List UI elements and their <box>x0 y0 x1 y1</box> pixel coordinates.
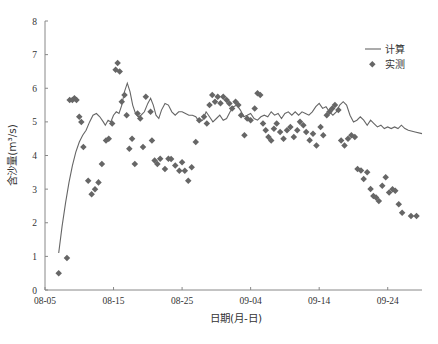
data-point-diamond <box>273 120 280 127</box>
data-point-diamond <box>157 156 164 163</box>
data-point-diamond <box>379 183 386 190</box>
data-point-diamond <box>260 120 267 127</box>
data-point-diamond <box>114 60 121 67</box>
data-point-diamond <box>188 164 195 171</box>
data-point-diamond <box>85 177 92 184</box>
data-point-diamond <box>209 92 216 99</box>
data-point-diamond <box>182 167 189 174</box>
series-line-calc <box>59 83 422 253</box>
x-tick-label: 09-04 <box>240 296 262 306</box>
y-tick-label: 0 <box>32 286 37 296</box>
y-tick-label: 1 <box>32 252 37 262</box>
data-point-diamond <box>121 92 128 99</box>
y-tick-label: 6 <box>32 84 37 94</box>
data-point-diamond <box>64 255 71 262</box>
y-tick-label: 4 <box>32 151 37 161</box>
x-tick-label: 08-15 <box>102 296 124 306</box>
data-point-diamond <box>313 142 320 149</box>
data-point-diamond <box>291 134 298 141</box>
data-point-diamond <box>140 144 147 151</box>
data-point-diamond <box>147 109 154 116</box>
data-point-diamond <box>129 135 136 142</box>
data-point-diamond <box>341 142 348 149</box>
y-tick-label: 3 <box>32 185 37 195</box>
chart: 012345678 08-0508-1508-2509-0409-1409-24… <box>0 0 438 344</box>
x-axis-title: 日期(月-日) <box>210 312 262 324</box>
data-point-diamond <box>306 137 313 144</box>
legend-item-calc: 计算 <box>365 43 405 55</box>
data-point-diamond <box>277 129 284 136</box>
data-point-diamond <box>126 146 133 153</box>
data-point-diamond <box>310 130 317 137</box>
y-tick-label: 2 <box>32 218 37 228</box>
x-tick-label: 09-14 <box>308 296 330 306</box>
plot-area <box>55 60 422 277</box>
legend-label-calc: 计算 <box>385 43 405 55</box>
y-tick-label: 5 <box>32 117 37 127</box>
data-point-diamond <box>123 112 130 119</box>
data-point-diamond <box>162 166 169 173</box>
data-point-diamond <box>367 186 374 193</box>
data-point-diamond <box>238 112 245 119</box>
data-point-diamond <box>201 114 208 121</box>
data-point-diamond <box>132 161 139 168</box>
data-point-diamond <box>92 186 99 193</box>
data-point-diamond <box>399 209 406 216</box>
data-point-diamond <box>294 127 301 134</box>
data-point-diamond <box>88 191 95 198</box>
data-point-diamond <box>172 162 179 169</box>
data-point-diamond <box>280 135 287 142</box>
data-point-diamond <box>95 179 102 186</box>
data-point-diamond <box>204 120 211 127</box>
data-point-diamond <box>364 169 371 176</box>
data-point-diamond <box>206 102 213 109</box>
data-point-diamond <box>217 100 224 107</box>
legend-item-observed: 实测 <box>369 58 405 70</box>
diamond-marker-icon <box>369 61 376 68</box>
x-tick-label: 08-05 <box>34 296 56 306</box>
data-point-diamond <box>382 174 389 181</box>
data-point-diamond <box>55 270 62 277</box>
y-tick-label: 8 <box>32 17 37 27</box>
data-point-diamond <box>320 132 327 139</box>
data-point-diamond <box>338 137 345 144</box>
data-point-diamond <box>413 213 420 220</box>
data-point-diamond <box>271 125 278 132</box>
y-axis: 012345678 <box>32 17 48 296</box>
legend: 计算 实测 <box>365 43 405 70</box>
x-axis: 08-0508-1508-2509-0409-1409-24 <box>34 287 422 306</box>
data-point-diamond <box>119 98 126 105</box>
x-tick-label: 09-24 <box>377 296 399 306</box>
data-point-diamond <box>262 127 269 134</box>
data-point-diamond <box>395 201 402 208</box>
data-point-diamond <box>80 144 87 151</box>
data-point-diamond <box>360 176 367 183</box>
data-point-diamond <box>241 132 248 139</box>
series-scatter-observed <box>55 60 419 277</box>
x-tick-label: 08-25 <box>171 296 193 306</box>
data-point-diamond <box>149 137 156 144</box>
y-axis-title: 含沙量(m³/s) <box>6 124 18 186</box>
data-point-diamond <box>179 159 186 166</box>
data-point-diamond <box>185 177 192 184</box>
y-tick-label: 7 <box>32 50 37 60</box>
data-point-diamond <box>251 105 258 112</box>
data-point-diamond <box>143 93 150 100</box>
data-point-diamond <box>193 139 200 146</box>
legend-label-observed: 实测 <box>385 58 405 70</box>
data-point-diamond <box>303 129 310 136</box>
data-point-diamond <box>317 124 324 131</box>
data-point-diamond <box>99 161 106 168</box>
